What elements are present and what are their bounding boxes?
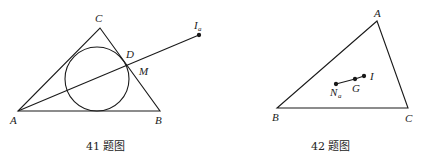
label-m: M [138, 65, 149, 77]
point-g [353, 77, 356, 80]
caption-41: 41 题图 [86, 137, 126, 153]
label-d: D [125, 48, 134, 60]
label-b-42: B [272, 111, 279, 123]
triangle-abc-42 [277, 21, 408, 108]
label-g: G [352, 82, 360, 94]
figure-41 [18, 28, 201, 111]
point-i [362, 74, 365, 77]
label-c-41: C [95, 12, 103, 24]
figure-42 [277, 21, 408, 108]
label-c-42: C [405, 112, 413, 124]
label-ia-subscript: a [198, 25, 202, 33]
caption-42: 42 题图 [311, 137, 351, 153]
diagram-canvas: C A B D M I a A B C I G N a [0, 0, 421, 164]
label-a-42: A [373, 7, 381, 19]
label-i-42: I [369, 70, 375, 82]
line-a-to-ia [18, 35, 199, 111]
label-a-41: A [9, 114, 17, 126]
incircle [65, 47, 129, 111]
label-na-subscript: a [338, 92, 342, 100]
point-ia [197, 33, 200, 36]
label-b-41: B [155, 114, 162, 126]
label-na: N [329, 86, 338, 98]
